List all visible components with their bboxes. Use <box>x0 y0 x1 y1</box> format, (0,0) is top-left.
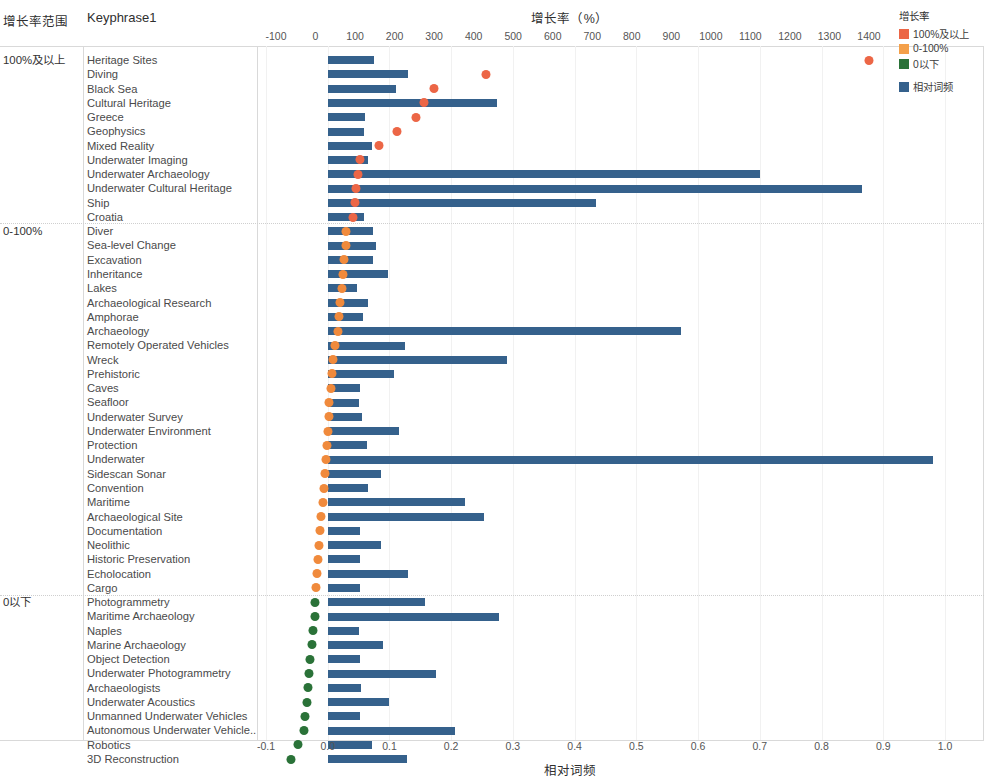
frequency-bar[interactable] <box>328 99 498 107</box>
growth-rate-dot[interactable] <box>301 712 310 721</box>
growth-rate-dot[interactable] <box>333 327 342 336</box>
frequency-bar[interactable] <box>328 270 388 278</box>
frequency-bar[interactable] <box>328 356 507 364</box>
chart-row[interactable]: Lakes <box>0 281 984 295</box>
chart-row[interactable]: Underwater Environment <box>0 424 984 438</box>
frequency-bar[interactable] <box>328 684 361 692</box>
growth-rate-dot[interactable] <box>320 484 329 493</box>
frequency-bar[interactable] <box>328 342 405 350</box>
frequency-bar[interactable] <box>328 427 400 435</box>
chart-row[interactable]: Diving <box>0 67 984 81</box>
frequency-bar[interactable] <box>328 213 364 221</box>
frequency-bar[interactable] <box>328 470 382 478</box>
frequency-bar[interactable] <box>328 498 465 506</box>
growth-rate-dot[interactable] <box>300 726 309 735</box>
chart-row[interactable]: Underwater <box>0 452 984 466</box>
chart-row[interactable]: Sea-level Change <box>0 238 984 252</box>
chart-row[interactable]: Ship <box>0 196 984 210</box>
growth-rate-dot[interactable] <box>349 213 358 222</box>
chart-row[interactable]: Maritime <box>0 495 984 509</box>
chart-row[interactable]: Archaeology <box>0 324 984 338</box>
frequency-bar[interactable] <box>328 299 368 307</box>
chart-row[interactable]: Wreck <box>0 353 984 367</box>
chart-row[interactable]: Underwater Cultural Heritage <box>0 181 984 195</box>
chart-row[interactable]: Prehistoric <box>0 367 984 381</box>
growth-rate-dot[interactable] <box>302 698 311 707</box>
growth-rate-dot[interactable] <box>337 284 346 293</box>
frequency-bar[interactable] <box>328 655 361 663</box>
chart-row[interactable]: Archaeological Site <box>0 510 984 524</box>
frequency-bar[interactable] <box>328 441 368 449</box>
growth-rate-dot[interactable] <box>308 626 317 635</box>
growth-rate-dot[interactable] <box>336 298 345 307</box>
chart-row[interactable]: Underwater Archaeology <box>0 167 984 181</box>
chart-row[interactable]: Cargo <box>0 581 984 595</box>
frequency-bar[interactable] <box>328 56 374 64</box>
growth-rate-dot[interactable] <box>342 227 351 236</box>
chart-row[interactable]: Underwater Photogrammetry <box>0 666 984 680</box>
chart-row[interactable]: Sidescan Sonar <box>0 467 984 481</box>
growth-rate-dot[interactable] <box>354 170 363 179</box>
chart-row[interactable]: Underwater Acoustics <box>0 695 984 709</box>
frequency-bar[interactable] <box>328 727 456 735</box>
frequency-bar[interactable] <box>328 185 862 193</box>
growth-rate-dot[interactable] <box>328 355 337 364</box>
growth-rate-dot[interactable] <box>865 56 874 65</box>
frequency-bar[interactable] <box>328 256 373 264</box>
growth-rate-dot[interactable] <box>335 312 344 321</box>
chart-row[interactable]: Object Detection <box>0 652 984 666</box>
chart-row[interactable]: Maritime Archaeology <box>0 609 984 623</box>
chart-row[interactable]: Inheritance <box>0 267 984 281</box>
chart-row[interactable]: Croatia <box>0 210 984 224</box>
frequency-bar[interactable] <box>328 170 760 178</box>
chart-row[interactable]: Protection <box>0 438 984 452</box>
chart-row[interactable]: Amphorae <box>0 310 984 324</box>
growth-rate-dot[interactable] <box>412 113 421 122</box>
frequency-bar[interactable] <box>328 555 360 563</box>
growth-rate-dot[interactable] <box>326 384 335 393</box>
frequency-bar[interactable] <box>328 541 381 549</box>
growth-rate-dot[interactable] <box>430 84 439 93</box>
growth-rate-dot[interactable] <box>314 541 323 550</box>
growth-rate-dot[interactable] <box>305 669 314 678</box>
growth-rate-dot[interactable] <box>313 555 322 564</box>
chart-row[interactable]: Geophysics <box>0 124 984 138</box>
growth-rate-dot[interactable] <box>311 598 320 607</box>
growth-rate-dot[interactable] <box>306 655 315 664</box>
frequency-bar[interactable] <box>328 570 408 578</box>
frequency-bar[interactable] <box>328 199 597 207</box>
frequency-bar[interactable] <box>328 698 390 706</box>
chart-row[interactable]: Documentation <box>0 524 984 538</box>
legend-item[interactable]: 0以下 <box>899 56 984 71</box>
growth-rate-dot[interactable] <box>352 184 361 193</box>
frequency-bar[interactable] <box>328 613 499 621</box>
growth-rate-dot[interactable] <box>481 70 490 79</box>
growth-rate-dot[interactable] <box>374 141 383 150</box>
chart-row[interactable]: Naples <box>0 624 984 638</box>
chart-row[interactable]: Black Sea <box>0 82 984 96</box>
growth-rate-dot[interactable] <box>339 270 348 279</box>
frequency-bar[interactable] <box>328 70 408 78</box>
growth-rate-dot[interactable] <box>312 583 321 592</box>
chart-row[interactable]: 0-100%Diver <box>0 224 984 238</box>
growth-rate-dot[interactable] <box>420 98 429 107</box>
frequency-bar[interactable] <box>328 670 436 678</box>
chart-row[interactable]: Greece <box>0 110 984 124</box>
growth-rate-dot[interactable] <box>313 569 322 578</box>
frequency-bar[interactable] <box>328 85 396 93</box>
chart-row[interactable]: Underwater Imaging <box>0 153 984 167</box>
chart-row[interactable]: Historic Preservation <box>0 552 984 566</box>
chart-row[interactable]: Marine Archaeology <box>0 638 984 652</box>
chart-row[interactable]: Echolocation <box>0 567 984 581</box>
growth-rate-dot[interactable] <box>325 398 334 407</box>
growth-rate-dot[interactable] <box>392 127 401 136</box>
chart-row[interactable]: Underwater Survey <box>0 410 984 424</box>
frequency-bar[interactable] <box>328 484 369 492</box>
frequency-bar[interactable] <box>328 313 363 321</box>
frequency-bar[interactable] <box>328 712 360 720</box>
chart-row[interactable]: Cultural Heritage <box>0 96 984 110</box>
chart-row[interactable]: Caves <box>0 381 984 395</box>
frequency-bar[interactable] <box>328 128 364 136</box>
growth-rate-dot[interactable] <box>330 341 339 350</box>
frequency-bar[interactable] <box>328 370 395 378</box>
